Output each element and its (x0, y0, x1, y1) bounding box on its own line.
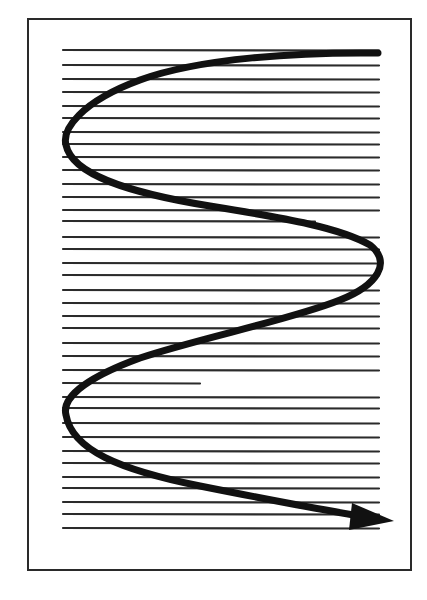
text-line (63, 451, 379, 452)
text-line (63, 144, 379, 145)
reading-path-diagram (0, 0, 427, 600)
text-line (63, 65, 379, 66)
text-line (63, 477, 379, 478)
text-line (63, 397, 379, 398)
text-line (63, 197, 379, 198)
text-line (63, 502, 379, 503)
text-line (63, 170, 379, 171)
text-line (63, 437, 379, 438)
text-line (63, 423, 379, 424)
text-line (63, 275, 379, 276)
text-line (63, 356, 379, 357)
text-line (63, 157, 379, 158)
text-line (63, 132, 379, 133)
text-line (63, 528, 379, 529)
text-line (63, 237, 379, 238)
text-line (63, 343, 379, 344)
text-line (63, 263, 379, 264)
text-line (63, 79, 379, 80)
text-line (63, 408, 379, 409)
text-line (63, 316, 379, 317)
text-line (63, 328, 379, 329)
text-line (63, 290, 379, 291)
text-line (63, 118, 379, 119)
text-line (63, 249, 379, 250)
text-line (63, 106, 379, 107)
